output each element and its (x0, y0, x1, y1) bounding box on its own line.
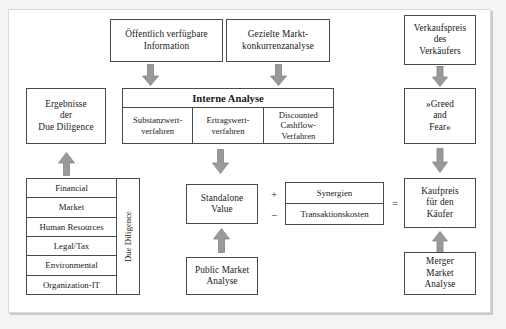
synergies-row-transaktionskosten: Transaktionskosten (286, 204, 383, 224)
group-due-diligence: Financial Market Human Resources Legal/T… (26, 178, 140, 295)
node-oeffentlich-information: Öffentlich verfügbare Information (110, 19, 223, 62)
node-line: verfahren (141, 126, 174, 136)
due-diligence-row: Legal/Tax (27, 237, 116, 256)
node-line: Käufer (418, 209, 462, 220)
due-diligence-row: Human Resources (27, 218, 116, 237)
group-interne-analyse: Interne Analyse Substanzwert- verfahren … (122, 88, 334, 144)
arrow-publicmarket-to-standalone-up-icon (213, 228, 230, 253)
node-line: Value (198, 204, 246, 215)
node-line: der (35, 110, 96, 121)
node-line: Analyse (192, 276, 252, 287)
arrow-gezielte-to-interne-down-icon (270, 64, 287, 86)
node-line: Ertragswert- (207, 115, 250, 125)
interne-analyse-columns: Substanzwert- verfahren Ertragswert- ver… (123, 108, 333, 143)
arrow-duediligence-to-ergebnisse-up-icon (58, 152, 75, 176)
node-merger-market-analyse: Merger Market Analyse (404, 252, 476, 295)
node-line: Public Market (192, 265, 252, 276)
due-diligence-row: Organization-IT (27, 276, 116, 294)
operator-plus: + (268, 188, 280, 200)
due-diligence-row: Financial (27, 179, 116, 198)
due-diligence-rows: Financial Market Human Resources Legal/T… (27, 179, 117, 294)
arrow-mergermarket-to-kaufpreis-up-icon (432, 231, 448, 253)
node-verkaufspreis-des-verkaeufers: Verkaufspreis des Verkäufers (404, 15, 476, 65)
node-line: Merger (421, 256, 458, 267)
operator-equals: = (389, 197, 401, 209)
node-line: Cashflow- (280, 120, 316, 130)
node-line: verfahren (212, 126, 245, 136)
node-line: »Greed (423, 99, 457, 110)
node-line: Standalone (198, 193, 246, 204)
node-line: Kaufpreis (418, 186, 462, 197)
node-line: für den (418, 197, 462, 208)
node-line: Discounted (279, 110, 318, 120)
node-public-market-analyse: Public Market Analyse (186, 257, 258, 295)
node-line: Due Diligence (35, 122, 96, 133)
due-diligence-side-label: Due Diligence (117, 179, 139, 294)
node-line: Fear« (423, 122, 457, 133)
node-line: Analyse (421, 279, 458, 290)
due-diligence-side-label-text: Due Diligence (123, 211, 133, 262)
node-line: Verkäufers (411, 46, 469, 57)
scan-frame: Öffentlich verfügbare Information Geziel… (0, 0, 506, 329)
interne-column-substanzwertverfahren: Substanzwert- verfahren (123, 108, 193, 143)
interne-column-discounted-cashflow-verfahren: Discounted Cashflow- Verfahren (264, 108, 333, 143)
node-line: konkurrenzanalyse (239, 41, 317, 52)
operator-minus: − (268, 209, 280, 221)
synergies-row-synergien: Synergien (286, 183, 383, 204)
node-greed-and-fear: »Greed and Fear« (404, 88, 476, 144)
node-line: Market (421, 268, 458, 279)
arrow-interne-to-standalone-down-icon (212, 149, 229, 174)
node-line: and (423, 110, 457, 121)
diagram-canvas: Öffentlich verfügbare Information Geziel… (0, 0, 506, 329)
due-diligence-row: Environmental (27, 256, 116, 275)
node-line: Ergebnisse (35, 99, 96, 110)
node-standalone-value: Standalone Value (186, 184, 258, 224)
node-line: Substanzwert- (133, 115, 182, 125)
node-ergebnisse-der-due-diligence: Ergebnisse der Due Diligence (26, 88, 106, 144)
interne-analyse-title: Interne Analyse (123, 89, 333, 108)
node-line: Information (122, 41, 211, 52)
arrow-verkaufspreis-to-greed-down-icon (432, 66, 448, 87)
node-line: des (411, 34, 469, 45)
node-gezielte-marktkonkurrenzanalyse: Gezielte Markt- konkurrenzanalyse (226, 19, 330, 62)
node-line: Verfahren (281, 131, 315, 141)
node-line: Verkaufspreis (411, 23, 469, 34)
node-line: Öffentlich verfügbare (122, 29, 211, 40)
group-synergien-transaktionskosten: Synergien Transaktionskosten (285, 182, 384, 225)
arrow-greed-to-kaufpreis-down-icon (432, 148, 448, 173)
arrow-oeffentlich-to-interne-down-icon (142, 64, 159, 86)
node-kaufpreis-fuer-den-kaeufer: Kaufpreis für den Käufer (404, 178, 476, 228)
due-diligence-row: Market (27, 198, 116, 217)
node-line: Gezielte Markt- (239, 29, 317, 40)
interne-column-ertragswertverfahren: Ertragswert- verfahren (193, 108, 263, 143)
